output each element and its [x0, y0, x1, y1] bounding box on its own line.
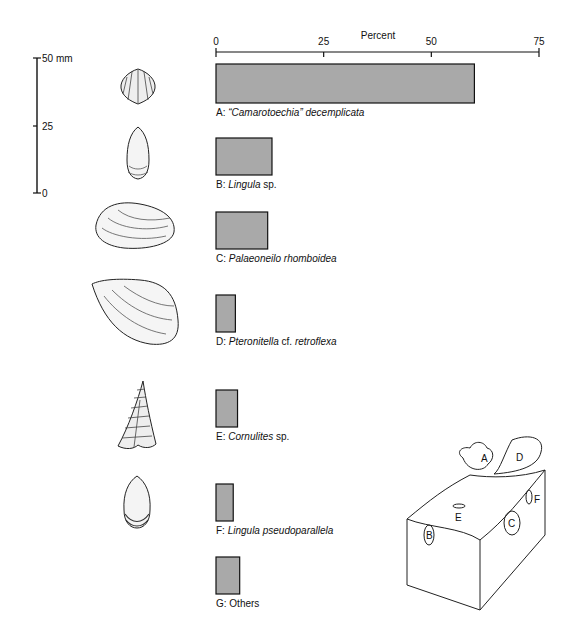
outcrop-f [526, 490, 532, 504]
lingula-pseudoparallela-shell-icon [124, 476, 150, 528]
block-label-c: C [508, 518, 515, 529]
bar [216, 295, 235, 332]
bar [216, 64, 474, 103]
bar [216, 212, 268, 249]
x-tick-label: 25 [318, 36, 330, 47]
bar-label: B: Lingula sp. [216, 179, 277, 190]
bar-label: A: “Camarotoechia” decemplicata [216, 107, 365, 118]
bar-label: E: Cornulites sp. [216, 431, 289, 442]
bar-label: C: Palaeoneilo rhomboidea [216, 253, 337, 264]
block-label-d: D [516, 452, 523, 463]
outcrop-e [453, 504, 465, 508]
bar [216, 484, 233, 521]
block-label-b: B [426, 530, 433, 541]
scale-label-25: 25 [42, 121, 54, 132]
x-tick-label: 0 [213, 36, 219, 47]
bar-label: G: Others [216, 598, 259, 609]
x-tick-label: 50 [426, 36, 438, 47]
fossil-illustrations [92, 69, 178, 528]
outcrop-a [459, 442, 492, 469]
bar-chart: Percent 0255075 A: “Camarotoechia” decem… [213, 30, 545, 609]
palaeoneilo-shell-icon [96, 203, 174, 249]
lingula-shell-icon [127, 127, 149, 179]
figure: 50 mm 25 0 [0, 0, 578, 637]
scale-label-0: 0 [42, 188, 48, 199]
cornulites-shell-icon [118, 381, 156, 449]
bar [216, 557, 240, 594]
block-label-e: E [455, 512, 462, 523]
pteronitella-shell-icon [92, 279, 178, 344]
scale-bar: 50 mm 25 0 [33, 53, 73, 199]
x-tick-label: 75 [533, 36, 545, 47]
bar [216, 138, 272, 175]
scale-label-50: 50 mm [42, 53, 73, 64]
bar-label: F: Lingula pseudoparallela [216, 525, 334, 536]
camarotoechia-shell-icon [121, 69, 155, 104]
bar [216, 390, 238, 427]
block-diagram: A D F E C B [407, 437, 545, 610]
block-label-a: A [481, 453, 488, 464]
x-axis-label: Percent [361, 30, 396, 41]
bar-label: D: Pteronitella cf. retroflexa [216, 336, 337, 347]
block-label-f: F [534, 494, 540, 505]
